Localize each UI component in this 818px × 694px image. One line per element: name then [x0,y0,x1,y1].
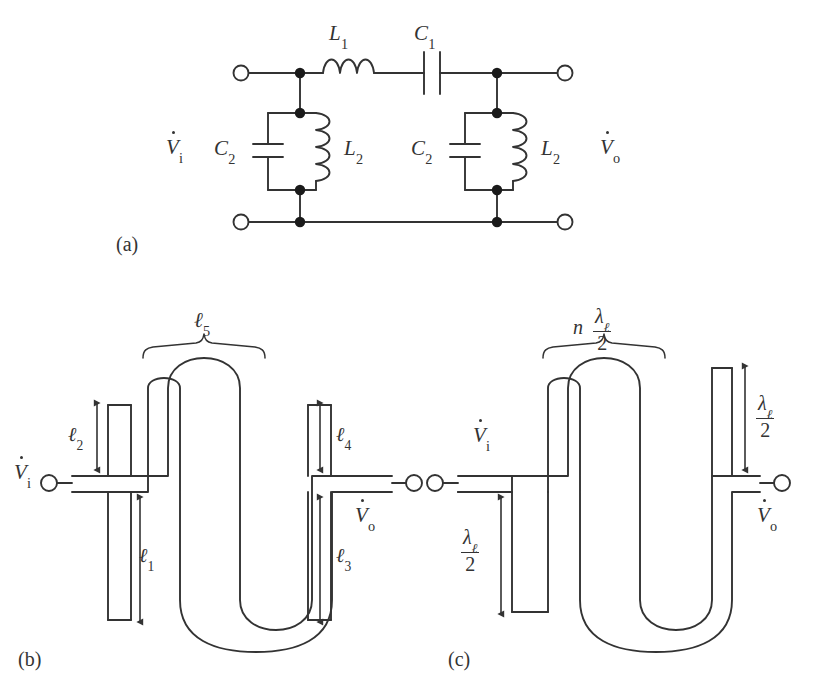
panel-label-a: (a) [116,233,138,256]
label-vo-a: Vo [600,137,620,161]
node-dot [295,217,305,227]
panel-label-c: (c) [448,648,470,671]
label-vi-b: Vi [14,462,31,486]
node-dot [492,108,502,118]
panel-a-circuit [248,52,558,222]
label-vi-a: Vi [166,137,183,161]
label-l2: ℓ2 [68,424,83,449]
label-l1: ℓ1 [139,545,154,570]
label-C2-left: C2 [214,138,235,162]
label-vo-b: Vo [355,505,375,529]
terminal-c-in [427,475,443,491]
node-dot [295,185,305,195]
label-L2-left: L2 [344,138,363,162]
ribbon-outer-wall-b [72,358,392,630]
node-dot [492,68,502,78]
circuit-node-dots [295,68,502,227]
label-l5: ℓ5 [194,310,210,334]
inductor-L2-right-coils [513,113,527,181]
ribbon-outer-wall-c [458,358,760,630]
terminal-a-in-bottom [234,215,249,230]
node-dot [295,108,305,118]
panel-c-layout [443,334,774,652]
label-l4: ℓ4 [336,424,351,449]
label-C1: C1 [414,23,435,47]
label-half-lambda-left: λℓ2 [461,526,479,575]
label-C2-right: C2 [411,138,432,162]
ribbon-inner-wall-c [458,378,760,652]
terminal-b-out [406,475,422,491]
node-dot [295,68,305,78]
node-dot [492,185,502,195]
terminal-a-in-top [234,66,249,81]
label-half-lambda-right: λℓ2 [756,392,774,441]
figure-root: L1 C1 C2 L2 C2 L2 Vi Vo (a) ℓ5 ℓ2 ℓ1 ℓ4 … [0,0,818,694]
panel-label-b: (b) [18,648,41,671]
label-n-half-lambda: n λℓ2 [573,305,611,354]
ribbon-inner-wall-b [72,378,392,652]
panel-b-layout [57,334,406,652]
label-L2-right: L2 [541,138,560,162]
terminal-a-out-bottom [558,215,573,230]
terminal-c-out [774,475,790,491]
label-L1: L1 [329,23,348,47]
figure-canvas [0,0,818,694]
terminal-b-in [41,475,57,491]
label-vi-c: Vi [473,425,490,449]
label-l3: ℓ3 [336,545,351,570]
inductor-L1-coils [323,60,374,74]
inductor-L2-left-coils [316,113,330,181]
node-dot [492,217,502,227]
label-vo-c: Vo [757,505,777,529]
terminal-a-out-top [558,66,573,81]
